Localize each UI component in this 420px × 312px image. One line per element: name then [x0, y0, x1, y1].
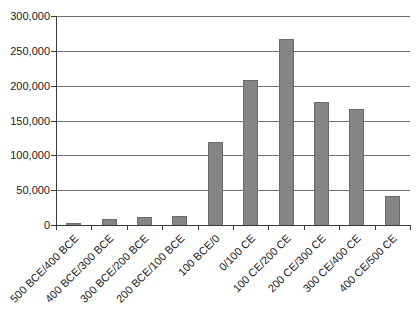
bar-chart: 050,000100,000150,000200,000250,000300,0…: [0, 0, 420, 312]
x-axis-labels: 500 BCE/400 BCE400 BCE/300 BCE300 BCE/20…: [0, 0, 420, 312]
